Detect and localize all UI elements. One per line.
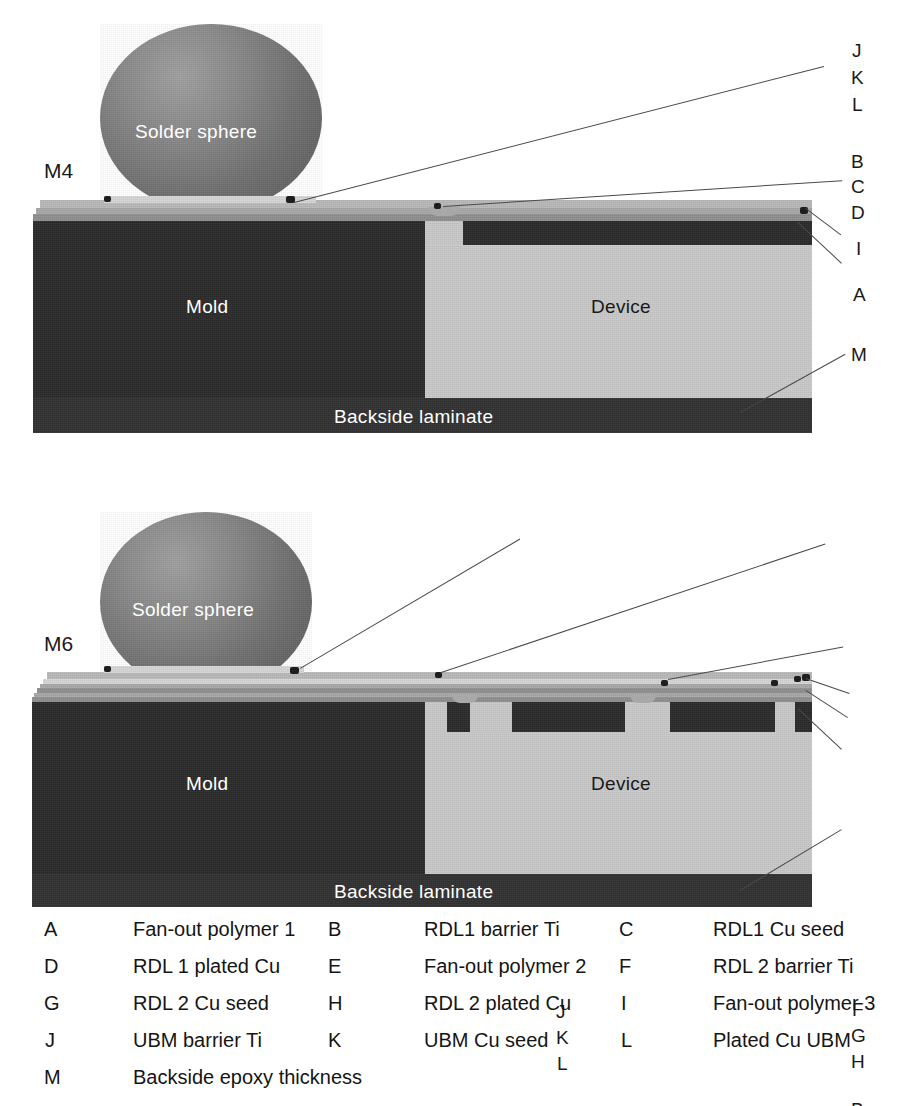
legend-text-c: RDL1 Cu seed xyxy=(713,918,844,941)
via-dimple-1 xyxy=(452,695,478,703)
legend-key-a: A xyxy=(44,918,57,941)
edge-barrier-dot-b xyxy=(794,676,801,682)
via-opening-1 xyxy=(425,702,447,732)
legend: A Fan-out polymer 1 B RDL1 barrier Ti C … xyxy=(0,918,912,1103)
mold-block xyxy=(33,221,425,398)
ubm-barrier-dot-left xyxy=(104,196,111,202)
device-die xyxy=(425,245,812,398)
legend-row: M Backside epoxy thickness xyxy=(0,1066,912,1103)
figure-canvas: Solder sphere M4 Mold Device Backside la… xyxy=(0,0,912,1106)
legend-key-h: H xyxy=(328,992,342,1015)
legend-text-l: Plated Cu UBM xyxy=(713,1029,851,1052)
mold-overlay-right xyxy=(463,221,812,245)
legend-text-d: RDL 1 plated Cu xyxy=(133,955,280,978)
callout-i: I xyxy=(856,239,862,258)
callout-l: L xyxy=(852,95,863,114)
legend-text-j: UBM barrier Ti xyxy=(133,1029,262,1052)
legend-key-f: F xyxy=(619,955,631,978)
legend-key-d: D xyxy=(44,955,58,978)
legend-key-m: M xyxy=(44,1066,61,1089)
legend-key-j: J xyxy=(45,1029,55,1052)
leader-k xyxy=(294,66,824,203)
legend-text-e: Fan-out polymer 2 xyxy=(424,955,586,978)
device-die xyxy=(425,732,812,874)
callout-d: D xyxy=(851,203,865,222)
mold-label: Mold xyxy=(186,774,228,793)
callout-a: A xyxy=(853,285,866,304)
via-barrier-dot xyxy=(434,203,441,209)
legend-text-i: Fan-out polymer 3 xyxy=(713,992,875,1015)
ubm-barrier-dot-left xyxy=(104,666,111,672)
legend-text-b: RDL1 barrier Ti xyxy=(424,918,560,941)
mold-block xyxy=(32,702,425,874)
device-label: Device xyxy=(591,297,651,316)
device-label: Device xyxy=(591,774,651,793)
rdl1-barrier-dot xyxy=(661,680,668,686)
via-opening-2 xyxy=(470,702,512,732)
callout-j: J xyxy=(852,41,862,60)
via-column xyxy=(425,221,463,245)
legend-key-k: K xyxy=(328,1029,341,1052)
via-opening-4 xyxy=(775,702,795,732)
callout-c: C xyxy=(851,177,865,196)
legend-text-a: Fan-out polymer 1 xyxy=(133,918,295,941)
solder-sphere-label: Solder sphere xyxy=(132,600,254,619)
legend-key-b: B xyxy=(328,918,341,941)
via-dimple-2 xyxy=(630,695,656,703)
callout-m: M xyxy=(851,345,867,364)
legend-key-l: L xyxy=(621,1029,632,1052)
edge-barrier-dot-a xyxy=(771,680,778,686)
legend-text-f: RDL 2 barrier Ti xyxy=(713,955,853,978)
mold-label: Mold xyxy=(186,297,228,316)
legend-key-g: G xyxy=(44,992,60,1015)
legend-row: D RDL 1 plated Cu E Fan-out polymer 2 F … xyxy=(0,955,912,992)
backside-laminate-label: Backside laminate xyxy=(334,882,493,901)
ubm-barrier-dot-right xyxy=(290,667,299,674)
panel-label-m6: M6 xyxy=(44,633,73,654)
callout-b: B xyxy=(851,152,864,171)
via-opening-3 xyxy=(625,702,670,732)
legend-text-m: Backside epoxy thickness xyxy=(133,1066,362,1089)
solder-sphere-label: Solder sphere xyxy=(135,122,257,141)
layer-fan-out-polymer-1 xyxy=(33,214,812,221)
legend-row: A Fan-out polymer 1 B RDL1 barrier Ti C … xyxy=(0,918,912,955)
legend-text-h: RDL 2 plated Cu xyxy=(424,992,571,1015)
via-dimple xyxy=(428,207,460,216)
legend-row: G RDL 2 Cu seed H RDL 2 plated Cu I Fan-… xyxy=(0,992,912,1029)
solder-sphere xyxy=(100,24,322,212)
legend-text-g: RDL 2 Cu seed xyxy=(133,992,269,1015)
legend-text-k: UBM Cu seed xyxy=(424,1029,549,1052)
panel-m6: Solder sphere M6 Mold Devi xyxy=(0,490,912,910)
panel-m4: Solder sphere M4 Mold Device Backside la… xyxy=(0,0,912,460)
legend-row: J UBM barrier Ti K UBM Cu seed L Plated … xyxy=(0,1029,912,1066)
callout-k: K xyxy=(851,68,864,87)
ubm-pad xyxy=(104,666,304,673)
legend-key-e: E xyxy=(328,955,341,978)
legend-key-c: C xyxy=(619,918,633,941)
panel-label-m4: M4 xyxy=(44,160,73,181)
ubm-pad xyxy=(104,196,316,203)
legend-key-i: I xyxy=(621,992,627,1015)
backside-laminate-label: Backside laminate xyxy=(334,407,493,426)
